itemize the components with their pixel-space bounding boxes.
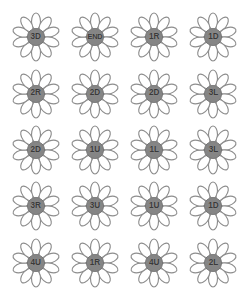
- daisy-icon: [68, 236, 122, 290]
- flower-cell[interactable]: 2D: [6, 122, 65, 178]
- flower-center: [27, 29, 44, 46]
- flower-cell[interactable]: 1D: [184, 9, 243, 65]
- flower-center: [27, 198, 44, 215]
- flower-center: [146, 198, 163, 215]
- flower-center: [27, 85, 44, 102]
- flower-center: [86, 254, 103, 271]
- flower-cell[interactable]: 2L: [184, 235, 243, 291]
- daisy-icon: [127, 123, 181, 177]
- flower-center: [205, 198, 222, 215]
- flower-icon[interactable]: 2D: [127, 67, 181, 121]
- flower-center: [146, 85, 163, 102]
- flower-cell[interactable]: 4U: [125, 235, 184, 291]
- daisy-icon: [68, 10, 122, 64]
- flower-cell[interactable]: 4U: [6, 235, 65, 291]
- flower-icon[interactable]: 3L: [186, 123, 240, 177]
- daisy-icon: [68, 67, 122, 121]
- flower-icon[interactable]: 1R: [68, 236, 122, 290]
- flower-cell[interactable]: 1L: [125, 122, 184, 178]
- daisy-icon: [68, 123, 122, 177]
- flower-cell[interactable]: 2D: [65, 65, 124, 121]
- daisy-icon: [186, 67, 240, 121]
- daisy-icon: [127, 10, 181, 64]
- daisy-icon: [127, 179, 181, 233]
- flower-icon[interactable]: 2D: [9, 123, 63, 177]
- daisy-icon: [9, 236, 63, 290]
- daisy-icon: [186, 236, 240, 290]
- flower-cell[interactable]: END: [65, 9, 124, 65]
- flower-center: [205, 29, 222, 46]
- flower-icon[interactable]: 1U: [68, 123, 122, 177]
- flower-cell[interactable]: 1R: [65, 235, 124, 291]
- daisy-icon: [186, 179, 240, 233]
- flower-grid-board: 3DEND1R1D2R2D2D3L2D1U1L3L3R3U1U1D4U1R4U2…: [0, 0, 249, 299]
- flower-cell[interactable]: 3L: [184, 65, 243, 121]
- flower-icon[interactable]: 2R: [9, 67, 63, 121]
- flower-icon[interactable]: 1D: [186, 10, 240, 64]
- daisy-icon: [9, 10, 63, 64]
- flower-cell[interactable]: 3L: [184, 122, 243, 178]
- daisy-icon: [186, 10, 240, 64]
- daisy-icon: [127, 67, 181, 121]
- flower-icon[interactable]: 4U: [127, 236, 181, 290]
- flower-center: [146, 254, 163, 271]
- flower-center: [27, 141, 44, 158]
- flower-grid: 3DEND1R1D2R2D2D3L2D1U1L3L3R3U1U1D4U1R4U2…: [0, 0, 249, 299]
- flower-center: [146, 29, 163, 46]
- flower-cell[interactable]: 3U: [65, 178, 124, 234]
- flower-cell[interactable]: 3R: [6, 178, 65, 234]
- flower-cell[interactable]: 1R: [125, 9, 184, 65]
- flower-cell[interactable]: 2D: [125, 65, 184, 121]
- flower-center: [146, 141, 163, 158]
- flower-icon[interactable]: 3L: [186, 67, 240, 121]
- flower-center: [86, 141, 103, 158]
- flower-center: [86, 29, 103, 46]
- daisy-icon: [9, 123, 63, 177]
- flower-icon[interactable]: 3R: [9, 179, 63, 233]
- flower-icon[interactable]: 1D: [186, 179, 240, 233]
- flower-icon[interactable]: 1U: [127, 179, 181, 233]
- flower-icon[interactable]: 4U: [9, 236, 63, 290]
- flower-cell[interactable]: 1D: [184, 178, 243, 234]
- flower-icon[interactable]: 1L: [127, 123, 181, 177]
- flower-cell[interactable]: 1U: [65, 122, 124, 178]
- daisy-icon: [9, 179, 63, 233]
- flower-icon[interactable]: 3U: [68, 179, 122, 233]
- flower-center: [205, 141, 222, 158]
- flower-icon[interactable]: 2L: [186, 236, 240, 290]
- flower-icon[interactable]: END: [68, 10, 122, 64]
- daisy-icon: [9, 67, 63, 121]
- flower-cell[interactable]: 1U: [125, 178, 184, 234]
- flower-center: [205, 254, 222, 271]
- flower-cell[interactable]: 2R: [6, 65, 65, 121]
- daisy-icon: [68, 179, 122, 233]
- flower-icon[interactable]: 1R: [127, 10, 181, 64]
- flower-center: [27, 254, 44, 271]
- daisy-icon: [186, 123, 240, 177]
- flower-icon[interactable]: 3D: [9, 10, 63, 64]
- flower-center: [205, 85, 222, 102]
- flower-center: [86, 85, 103, 102]
- daisy-icon: [127, 236, 181, 290]
- flower-icon[interactable]: 2D: [68, 67, 122, 121]
- flower-center: [86, 198, 103, 215]
- flower-cell[interactable]: 3D: [6, 9, 65, 65]
